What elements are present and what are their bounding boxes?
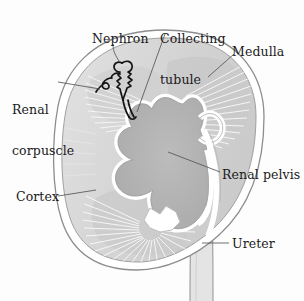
label-cortex: Cortex bbox=[16, 190, 59, 203]
kidney-diagram: Nephron Collecting tubule Medulla Renal … bbox=[0, 0, 304, 301]
label-collecting-tubule-line2: tubule bbox=[160, 73, 226, 87]
label-medulla: Medulla bbox=[232, 45, 284, 58]
label-ureter: Ureter bbox=[232, 237, 275, 250]
label-renal-corpuscle-line1: Renal bbox=[12, 103, 74, 117]
label-collecting-tubule-line1: Collecting bbox=[160, 32, 226, 46]
label-renal-pelvis: Renal pelvis bbox=[222, 168, 300, 181]
label-collecting-tubule: Collecting tubule bbox=[160, 5, 226, 113]
label-renal-corpuscle: Renal corpuscle bbox=[12, 76, 74, 184]
label-nephron: Nephron bbox=[92, 32, 149, 45]
label-renal-corpuscle-line2: corpuscle bbox=[12, 144, 74, 158]
